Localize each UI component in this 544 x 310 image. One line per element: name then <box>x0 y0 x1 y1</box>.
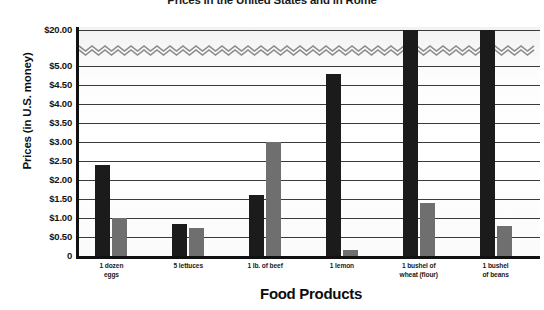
x-axis-category-label: 1 dozeneggs <box>71 262 151 279</box>
y-axis-tick-label: $1.50 <box>4 193 72 204</box>
y-axis-tick-label: $2.50 <box>4 155 72 166</box>
category-label-line: wheat (flour) <box>379 271 459 280</box>
category-label-line: 1 bushel of <box>379 262 459 271</box>
category-label-line: of beans <box>456 271 536 280</box>
y-axis-tick-label: $1.00 <box>4 212 72 223</box>
category-label-line: 1 lemon <box>302 262 382 271</box>
category-label-line: eggs <box>71 271 151 280</box>
category-label-line: 5 lettuces <box>148 262 228 271</box>
y-axis-tick-label: $3.50 <box>4 117 72 128</box>
y-axis-tick-label: $0.50 <box>4 231 72 242</box>
x-axis-category-label: 1 lb. of beef <box>225 262 305 271</box>
bar-0-4 <box>403 30 418 256</box>
x-axis-category-label: 5 lettuces <box>148 262 228 271</box>
category-label-line: 1 bushel <box>456 262 536 271</box>
y-axis-tick-label: $2.00 <box>4 174 72 185</box>
x-axis-category-label: 1 bushelof beans <box>456 262 536 279</box>
y-axis-tick-label: $5.00 <box>4 60 72 71</box>
category-label-line: 1 dozen <box>71 262 151 271</box>
x-axis-category-label: 1 lemon <box>302 262 382 271</box>
category-label-line: 1 lb. of beef <box>225 262 305 271</box>
y-axis-tick-label: $3.00 <box>4 136 72 147</box>
chart-root: Prices in the United States and in Rome … <box>0 0 544 310</box>
y-axis-tick-label: $4.50 <box>4 79 72 90</box>
x-axis-category-label: 1 bushel ofwheat (flour) <box>379 262 459 279</box>
y-axis-tick-label: $20.00 <box>4 24 72 35</box>
bar-0-5 <box>480 30 495 256</box>
x-axis-title: Food Products <box>78 285 544 302</box>
y-axis-tick-label: $4.00 <box>4 98 72 109</box>
y-axis-tick-label: 0 <box>4 250 72 261</box>
